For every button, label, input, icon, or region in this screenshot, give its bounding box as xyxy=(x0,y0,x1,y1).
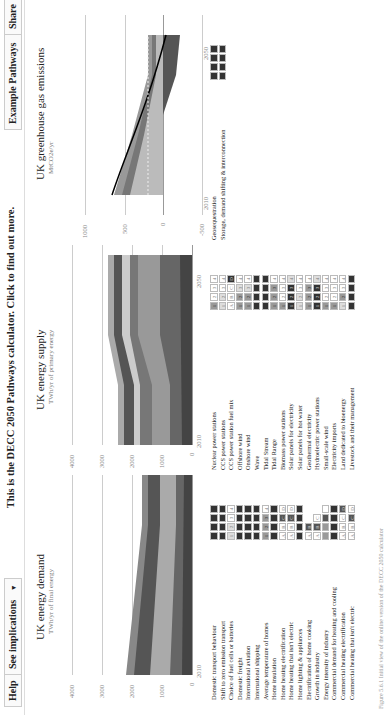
lever-label[interactable]: Commercial demand for heating and coolin… xyxy=(330,587,338,700)
lever-label[interactable]: Growth in industry xyxy=(313,652,321,700)
lever-level-button[interactable]: 3 xyxy=(339,284,347,292)
lever-level-button[interactable] xyxy=(270,523,278,531)
lever-level-button[interactable]: 3 xyxy=(244,284,252,292)
lever-level-button[interactable]: 3 xyxy=(322,284,330,292)
lever-level-button[interactable] xyxy=(219,514,227,522)
lever-level-button[interactable] xyxy=(236,523,244,531)
lever-level-button[interactable] xyxy=(244,523,252,531)
lever-level-button[interactable] xyxy=(210,532,218,540)
lever-level-button[interactable] xyxy=(219,72,227,80)
lever-label[interactable]: Average temperature of homes xyxy=(262,623,270,700)
lever-label[interactable]: International shipping xyxy=(253,645,261,700)
lever-level-button[interactable]: 4 xyxy=(236,275,244,283)
lever-level-button[interactable]: 3 xyxy=(210,284,218,292)
lever-level-button[interactable]: 2 xyxy=(262,523,270,531)
energy-demand-chart[interactable]: UK energy demand TWh/yr of final energy … xyxy=(30,470,210,700)
lever-level-button[interactable]: 4 xyxy=(210,275,218,283)
lever-level-button[interactable]: 2 xyxy=(322,293,330,301)
lever-level-button[interactable]: 3 xyxy=(313,284,321,292)
lever-level-button[interactable] xyxy=(210,63,218,71)
lever-level-button[interactable]: 4 xyxy=(219,275,227,283)
lever-level-button[interactable]: 3 xyxy=(287,284,295,292)
lever-label[interactable]: Electrification of home cooking xyxy=(305,620,313,700)
lever-level-button[interactable]: 3 xyxy=(227,514,235,522)
lever-level-button[interactable]: 4 xyxy=(244,275,252,283)
lever-level-button[interactable]: 1 xyxy=(279,302,287,310)
lever-level-button[interactable]: C xyxy=(287,514,295,522)
lever-level-button[interactable]: 2 xyxy=(305,293,313,301)
lever-level-button[interactable]: D xyxy=(348,505,356,513)
lever-level-button[interactable]: B xyxy=(348,523,356,531)
lever-level-button[interactable]: A xyxy=(348,532,356,540)
lever-level-button[interactable]: 4 xyxy=(270,275,278,283)
lever-label[interactable]: Geothermal electricity xyxy=(305,414,313,470)
lever-level-button[interactable]: 4 xyxy=(287,275,295,283)
lever-level-button[interactable]: C xyxy=(227,284,235,292)
lever-level-button[interactable] xyxy=(322,514,330,522)
lever-level-button[interactable] xyxy=(236,532,244,540)
lever-level-button[interactable]: 2 xyxy=(227,523,235,531)
lever-level-button[interactable]: A xyxy=(227,302,235,310)
lever-label[interactable]: CCS power station fuel mix xyxy=(227,400,235,470)
lever-level-button[interactable] xyxy=(348,284,356,292)
lever-level-button[interactable] xyxy=(219,63,227,71)
lever-level-button[interactable]: 3 xyxy=(305,284,313,292)
lever-level-button[interactable] xyxy=(244,532,252,540)
lever-level-button[interactable]: A xyxy=(279,532,287,540)
lever-level-button[interactable]: 2 xyxy=(339,293,347,301)
emissions-chart[interactable]: UK greenhouse gas emissions MtCO2e/yr 10… xyxy=(30,10,210,240)
lever-level-button[interactable]: D xyxy=(227,275,235,283)
lever-level-button[interactable]: 4 xyxy=(330,275,338,283)
lever-level-button[interactable] xyxy=(210,72,218,80)
lever-level-button[interactable] xyxy=(322,523,330,531)
lever-level-button[interactable] xyxy=(262,284,270,292)
lever-level-button[interactable] xyxy=(330,505,338,513)
lever-level-button[interactable] xyxy=(253,284,261,292)
lever-level-button[interactable] xyxy=(219,54,227,62)
lever-level-button[interactable]: 1 xyxy=(322,302,330,310)
lever-level-button[interactable]: D xyxy=(287,505,295,513)
lever-level-button[interactable] xyxy=(348,302,356,310)
lever-level-button[interactable]: 3 xyxy=(330,284,338,292)
lever-level-button[interactable] xyxy=(296,514,304,522)
lever-level-button[interactable]: D xyxy=(339,505,347,513)
lever-level-button[interactable] xyxy=(253,523,261,531)
lever-label[interactable]: Tidal Stream xyxy=(262,438,270,470)
share-button[interactable]: Share xyxy=(4,0,22,35)
lever-level-button[interactable]: 2 xyxy=(210,293,218,301)
lever-level-button[interactable]: 2 xyxy=(330,293,338,301)
lever-level-button[interactable] xyxy=(210,505,218,513)
lever-level-button[interactable]: B xyxy=(287,523,295,531)
lever-label[interactable]: Solar panels for electricity xyxy=(287,403,295,470)
lever-level-button[interactable]: 4 xyxy=(279,275,287,283)
lever-level-button[interactable] xyxy=(322,505,330,513)
lever-label[interactable]: Onshore wind xyxy=(244,434,252,470)
lever-label[interactable]: Home insulation xyxy=(270,658,278,700)
lever-level-button[interactable]: 2 xyxy=(287,293,295,301)
lever-label[interactable]: Home heating electrification xyxy=(279,628,287,700)
lever-level-button[interactable]: 3 xyxy=(219,284,227,292)
lever-level-button[interactable] xyxy=(262,293,270,301)
lever-level-button[interactable] xyxy=(270,514,278,522)
lever-level-button[interactable]: B xyxy=(339,523,347,531)
lever-level-button[interactable] xyxy=(253,514,261,522)
lever-level-button[interactable]: 1 xyxy=(219,302,227,310)
lever-label[interactable]: Solar panels for hot water xyxy=(296,405,304,470)
lever-label[interactable]: Land dedicated to bioenergy xyxy=(339,398,347,470)
lever-label[interactable]: Domestic freight xyxy=(236,658,244,701)
energy-supply-chart[interactable]: UK energy supply TWh/yr of primary energ… xyxy=(30,240,210,470)
lever-label[interactable]: Domestic transport behaviour xyxy=(210,625,218,700)
lever-level-button[interactable]: 4 xyxy=(313,275,321,283)
lever-level-button[interactable]: 2 xyxy=(296,293,304,301)
lever-level-button[interactable]: 4 xyxy=(262,505,270,513)
lever-level-button[interactable]: 1 xyxy=(244,302,252,310)
lever-label[interactable]: Livestock and their management xyxy=(348,388,356,470)
lever-level-button[interactable]: 1 xyxy=(330,302,338,310)
lever-level-button[interactable] xyxy=(236,505,244,513)
lever-level-button[interactable]: 1 xyxy=(236,302,244,310)
lever-level-button[interactable]: C xyxy=(348,514,356,522)
lever-level-button[interactable]: 1 xyxy=(227,532,235,540)
lever-label[interactable]: Small-scale wind xyxy=(322,426,330,470)
lever-level-button[interactable]: B xyxy=(305,523,313,531)
lever-level-button[interactable] xyxy=(262,302,270,310)
